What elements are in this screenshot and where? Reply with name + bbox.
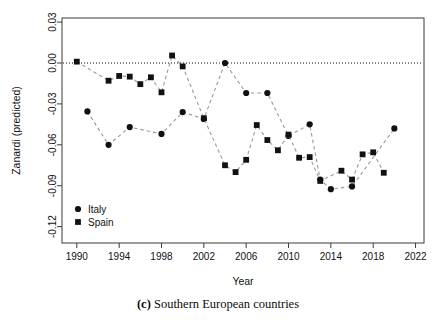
data-point bbox=[339, 168, 345, 174]
data-point bbox=[158, 131, 164, 137]
figure-panel: 0.030.00-0.03-0.06-0.09-0.12199019941998… bbox=[0, 0, 436, 323]
y-axis-tick-label: 0.03 bbox=[47, 12, 58, 32]
data-point bbox=[127, 74, 133, 80]
legend-label-spain: Spain bbox=[88, 217, 114, 228]
data-point bbox=[243, 90, 249, 96]
data-point bbox=[169, 53, 175, 59]
data-point bbox=[222, 60, 228, 66]
data-point bbox=[127, 124, 133, 130]
data-point bbox=[74, 59, 80, 65]
x-axis-tick-label: 1994 bbox=[108, 251, 131, 262]
data-point bbox=[180, 64, 186, 70]
data-point bbox=[222, 162, 228, 168]
data-point bbox=[360, 151, 366, 157]
y-axis-title: Zanardi (predicted) bbox=[10, 86, 22, 175]
y-axis-tick-label: -0.12 bbox=[47, 215, 58, 238]
data-point bbox=[307, 121, 313, 127]
data-point bbox=[180, 109, 186, 115]
x-axis-tick-label: 2018 bbox=[362, 251, 385, 262]
x-axis-tick-label: 2022 bbox=[404, 251, 427, 262]
data-point bbox=[106, 78, 112, 84]
data-point bbox=[349, 177, 355, 183]
data-point bbox=[254, 122, 260, 128]
x-axis-tick-label: 2002 bbox=[193, 251, 216, 262]
data-point bbox=[296, 155, 302, 161]
data-point bbox=[116, 73, 122, 79]
data-point bbox=[317, 178, 323, 184]
data-point bbox=[370, 149, 376, 155]
data-point bbox=[105, 142, 111, 148]
data-point bbox=[328, 186, 334, 192]
x-axis-tick-label: 2014 bbox=[320, 251, 343, 262]
data-point bbox=[243, 157, 249, 163]
data-point bbox=[84, 108, 90, 114]
data-point bbox=[349, 183, 355, 189]
data-point bbox=[233, 169, 239, 175]
data-point bbox=[264, 137, 270, 143]
x-axis-tick-label: 2010 bbox=[277, 251, 300, 262]
series-line bbox=[77, 56, 384, 181]
data-point bbox=[137, 81, 143, 87]
data-point bbox=[159, 89, 165, 95]
legend-marker-square bbox=[75, 219, 81, 225]
data-point bbox=[148, 74, 154, 80]
y-axis-tick-label: -0.06 bbox=[47, 133, 58, 156]
data-point bbox=[307, 154, 313, 160]
caption-text: Southern European countries bbox=[151, 297, 299, 311]
data-point bbox=[381, 170, 387, 176]
series-italy bbox=[84, 60, 397, 192]
plot-frame bbox=[62, 18, 424, 243]
data-point bbox=[264, 90, 270, 96]
y-axis-tick-label: -0.03 bbox=[47, 92, 58, 115]
caption-tag: (c) bbox=[137, 297, 151, 311]
x-axis-tick-label: 1998 bbox=[150, 251, 173, 262]
data-point bbox=[391, 125, 397, 131]
y-axis-tick-label: 0.00 bbox=[47, 53, 58, 73]
figure-caption: (c) Southern European countries bbox=[0, 297, 436, 312]
legend-label-italy: Italy bbox=[88, 204, 106, 215]
series-spain bbox=[74, 53, 387, 184]
series-line bbox=[87, 63, 394, 189]
y-axis-tick-label: -0.09 bbox=[47, 174, 58, 197]
legend-marker-circle bbox=[75, 206, 81, 212]
data-point bbox=[201, 115, 207, 121]
data-point bbox=[286, 132, 292, 138]
chart-canvas: 0.030.00-0.03-0.06-0.09-0.12199019941998… bbox=[0, 0, 436, 323]
x-axis-tick-label: 1990 bbox=[66, 251, 89, 262]
data-point bbox=[275, 147, 281, 153]
x-axis-tick-label: 2006 bbox=[235, 251, 258, 262]
x-axis-title: Year bbox=[232, 275, 254, 287]
